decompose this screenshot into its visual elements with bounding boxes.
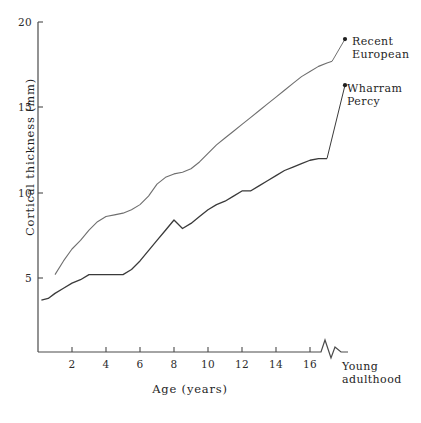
x-axis-break-zigzag <box>317 340 348 358</box>
y-tick-label-20: 20 <box>2 16 32 28</box>
x-tick-label-10: 10 <box>198 358 218 370</box>
annotation-recent-european: Recent European <box>352 35 409 61</box>
y-axis-title: Cortical thickness (mm) <box>23 67 37 247</box>
annotation-wharram-percy: Wharram Percy <box>347 82 402 108</box>
x-tick-label-16: 16 <box>300 358 320 370</box>
x-axis-title: Age (years) <box>110 382 270 396</box>
y-axis-ticks <box>38 22 43 278</box>
annotation-young-adulthood: Young adulthood <box>342 360 402 386</box>
x-tick-label-14: 14 <box>266 358 286 370</box>
x-tick-label-12: 12 <box>232 358 252 370</box>
y-tick-label-5: 5 <box>2 272 32 284</box>
endpoint-dot-recent-european <box>343 37 347 41</box>
connector-recent-european <box>332 39 345 61</box>
connector-wharram-percy <box>327 85 345 158</box>
x-tick-label-6: 6 <box>130 358 150 370</box>
x-tick-label-2: 2 <box>62 358 82 370</box>
x-axis-ticks <box>72 347 310 352</box>
x-tick-label-4: 4 <box>96 358 116 370</box>
x-tick-label-8: 8 <box>164 358 184 370</box>
series-line-wharram-percy <box>41 159 327 301</box>
cortical-thickness-chart: 20 15 10 5 2 4 6 8 10 12 14 16 Cortical … <box>0 0 421 423</box>
